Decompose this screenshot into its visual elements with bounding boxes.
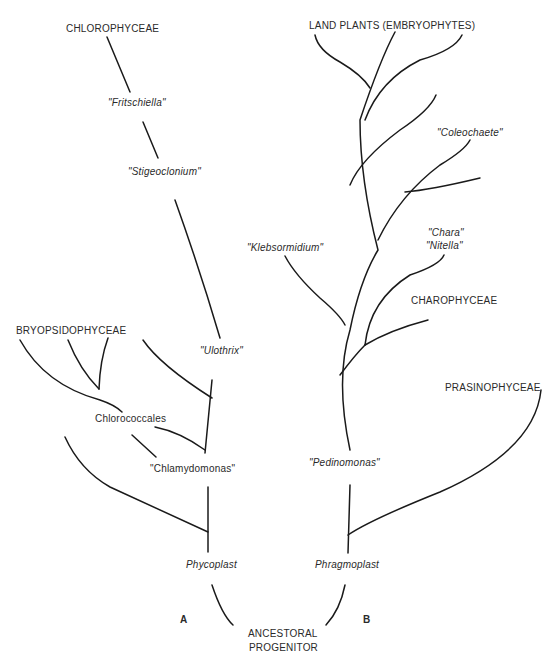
- label-klebsormidium: "Klebsormidium": [247, 242, 323, 253]
- a-branch-chlamy-left: [155, 427, 205, 450]
- label-ulothrix: "Ulothrix": [200, 345, 243, 356]
- a-bryo-2: [68, 340, 99, 389]
- b-charo-side: [365, 320, 428, 345]
- label-coleochaete: "Coleochaete": [437, 127, 503, 138]
- label-progenitor: PROGENITOR: [249, 642, 318, 653]
- label-land-plants: LAND PLANTS (EMBRYOPHYTES): [309, 20, 475, 31]
- root-branch-a: [212, 585, 233, 625]
- root-branch-b: [326, 585, 345, 625]
- a-trunk-mid: [205, 380, 212, 453]
- label-phragmoplast: Phragmoplast: [315, 559, 379, 570]
- label-nitella: "Nitella": [426, 240, 463, 251]
- label-phycoplast: Phycoplast: [186, 559, 237, 570]
- b-land-left: [315, 35, 370, 88]
- label-ancestoral: ANCESTORAL: [248, 628, 318, 639]
- label-chlorophyceae: CHLOROPHYCEAE: [66, 23, 159, 34]
- label-prasinophyceae: PRASINOPHYCEAE: [445, 382, 541, 393]
- a-fritsch-line: [107, 37, 130, 92]
- label-chlorococcales: Chlorococcales: [95, 413, 166, 424]
- a-bryo-3: [99, 338, 108, 389]
- label-stigeoclonium: "Stigeoclonium": [128, 166, 201, 177]
- label-chlamydomonas: "Chlamydomonas": [150, 463, 235, 474]
- a-bryo-1: [20, 340, 122, 412]
- panel-label-b: B: [363, 614, 370, 625]
- a-chlamy-stub: [132, 435, 156, 457]
- b-klebs-branch: [285, 256, 345, 325]
- a-left-branch: [65, 437, 208, 532]
- b-land-right: [365, 35, 462, 120]
- a-ulothrix-line: [175, 200, 220, 338]
- phylogeny-diagram: CHLOROPHYCEAE "Fritschiella" "Stigeoclon…: [0, 0, 558, 662]
- panel-label-a: A: [180, 614, 187, 625]
- b-trunk-upper: [343, 32, 396, 450]
- b-trunk-lower: [348, 485, 350, 553]
- label-chara: "Chara": [428, 227, 464, 238]
- label-fritschiella: "Fritschiella": [108, 97, 166, 108]
- label-bryopsidophyceae: BRYOPSIDOPHYCEAE: [16, 325, 126, 336]
- label-charophyceae: CHAROPHYCEAE: [411, 295, 497, 306]
- a-stig-line: [143, 122, 158, 158]
- label-pedinomonas: "Pedinomonas": [309, 457, 380, 468]
